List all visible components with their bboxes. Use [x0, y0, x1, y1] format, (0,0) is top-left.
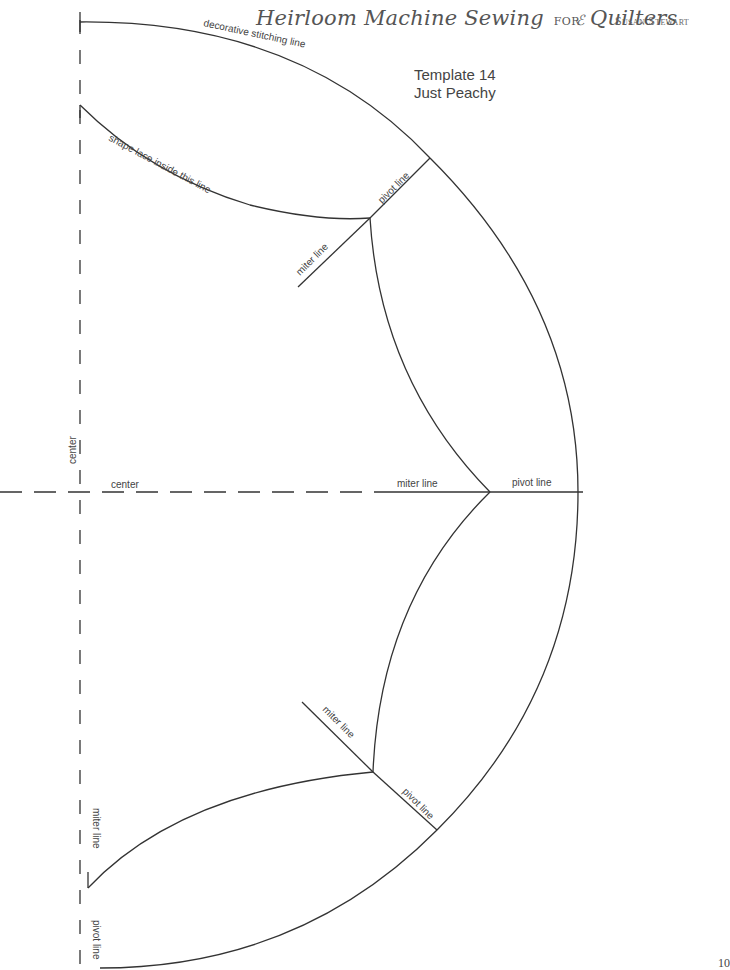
label-decorative-stitching-line: decorative stitching line: [203, 17, 307, 49]
inner-arc-bottom-right: [373, 492, 490, 772]
label-miter-line-left: miter line: [91, 808, 102, 849]
inner-arc-top-right: [370, 218, 490, 492]
label-center-horizontal: center: [111, 479, 139, 490]
label-miter-line-top: miter line: [294, 241, 331, 278]
inner-arc-bottom-left: [88, 772, 373, 888]
label-miter-line-bottom: miter line: [321, 704, 358, 741]
label-miter-line-middle: miter line: [397, 478, 438, 489]
template-drawing: decorative stitching line shape lace ins…: [0, 0, 730, 970]
miter-line-top: [298, 218, 370, 287]
page-number: 10: [718, 956, 730, 970]
label-pivot-line-top: pivot line: [376, 169, 412, 205]
label-pivot-line-middle: pivot line: [512, 477, 552, 488]
label-pivot-line-bottom: pivot line: [401, 786, 437, 822]
inner-arc-top-left: [80, 105, 370, 219]
label-pivot-line-left: pivot line: [91, 920, 102, 960]
label-center-vertical: center: [67, 436, 78, 464]
pivot-line-bottom: [373, 772, 437, 830]
label-shape-lace-inside: shape lace inside this line: [107, 132, 213, 195]
